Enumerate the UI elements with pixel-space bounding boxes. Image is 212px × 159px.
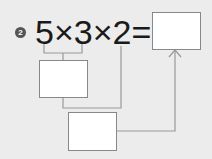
math-expression: 5×3×2= [35,14,151,50]
intermediate-product-box[interactable] [39,60,88,98]
answer-box[interactable] [152,12,201,50]
second-product-box[interactable] [68,112,117,151]
problem-number-badge: 2 [15,27,26,38]
